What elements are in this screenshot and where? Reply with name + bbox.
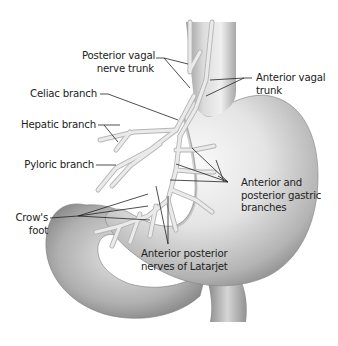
label-line: foot xyxy=(4,225,48,238)
label-posterior-vagal-nerve-trunk: Posterior vagal nerve trunk xyxy=(82,50,154,75)
label-line: Anterior and xyxy=(241,177,321,190)
stomach-vagus-diagram: Posterior vagal nerve trunk Anterior vag… xyxy=(0,0,338,346)
label-line: Anterior posterior xyxy=(141,248,228,261)
label-line: posterior gastric xyxy=(241,190,321,203)
label-nerves-of-latarjet: Anterior posterior nerves of Latarjet xyxy=(141,248,228,273)
label-line: branches xyxy=(241,202,321,215)
label-anterior-vagal-trunk: Anterior vagal trunk xyxy=(256,72,325,97)
label-hepatic-branch: Hepatic branch xyxy=(4,119,96,132)
label-line: Anterior vagal xyxy=(256,72,325,85)
label-line: Crow's xyxy=(4,212,48,225)
anatomy-illustration xyxy=(0,0,338,346)
label-pyloric-branch: Pyloric branch xyxy=(4,159,94,172)
label-crows-foot: Crow's foot xyxy=(4,212,48,237)
label-line: trunk xyxy=(256,85,325,98)
label-line: nerve trunk xyxy=(82,63,154,76)
label-line: Posterior vagal xyxy=(82,50,154,63)
label-line: nerves of Latarjet xyxy=(141,261,228,274)
label-celiac-branch: Celiac branch xyxy=(10,88,97,101)
label-gastric-branches: Anterior and posterior gastric branches xyxy=(241,177,321,215)
